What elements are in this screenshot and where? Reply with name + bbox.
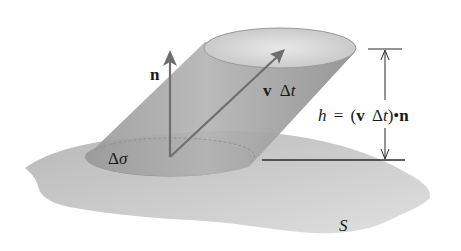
area-element-label: Δσ — [108, 149, 128, 168]
cylinder-top-ellipse — [204, 28, 356, 68]
velocity-label: v Δt — [263, 81, 297, 100]
normal-vector-label: n — [150, 65, 160, 84]
flux-diagram: n v Δt Δσ h = (v Δt)•n S — [0, 0, 461, 251]
height-formula-label: h = (v Δt)•n — [318, 106, 409, 125]
surface-label: S — [339, 216, 348, 235]
